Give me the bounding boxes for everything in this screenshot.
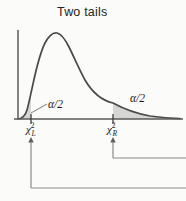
- chi-square-two-tails-figure: [0, 0, 186, 201]
- figure-title: Two tails: [57, 6, 107, 19]
- right-tail-shaded-area: [113, 103, 180, 119]
- chi-square-left-critical-label: χ2L: [26, 122, 36, 137]
- alpha-over-two-left-label: α/2: [48, 99, 63, 111]
- chi-right-arrow-up: [110, 137, 115, 158]
- chi-left-arrow-up: [28, 137, 33, 188]
- chi-square-curve: [18, 33, 180, 119]
- chi-right-subscript: R: [113, 129, 118, 138]
- chi-left-subscript: L: [32, 129, 36, 138]
- figure-container: Two tails α/2 α/2 χ2L χ2R: [0, 0, 186, 201]
- alpha-left-leader-line: [31, 104, 47, 113]
- alpha-over-two-right-label: α/2: [130, 93, 145, 105]
- chi-square-right-critical-label: χ2R: [107, 122, 117, 137]
